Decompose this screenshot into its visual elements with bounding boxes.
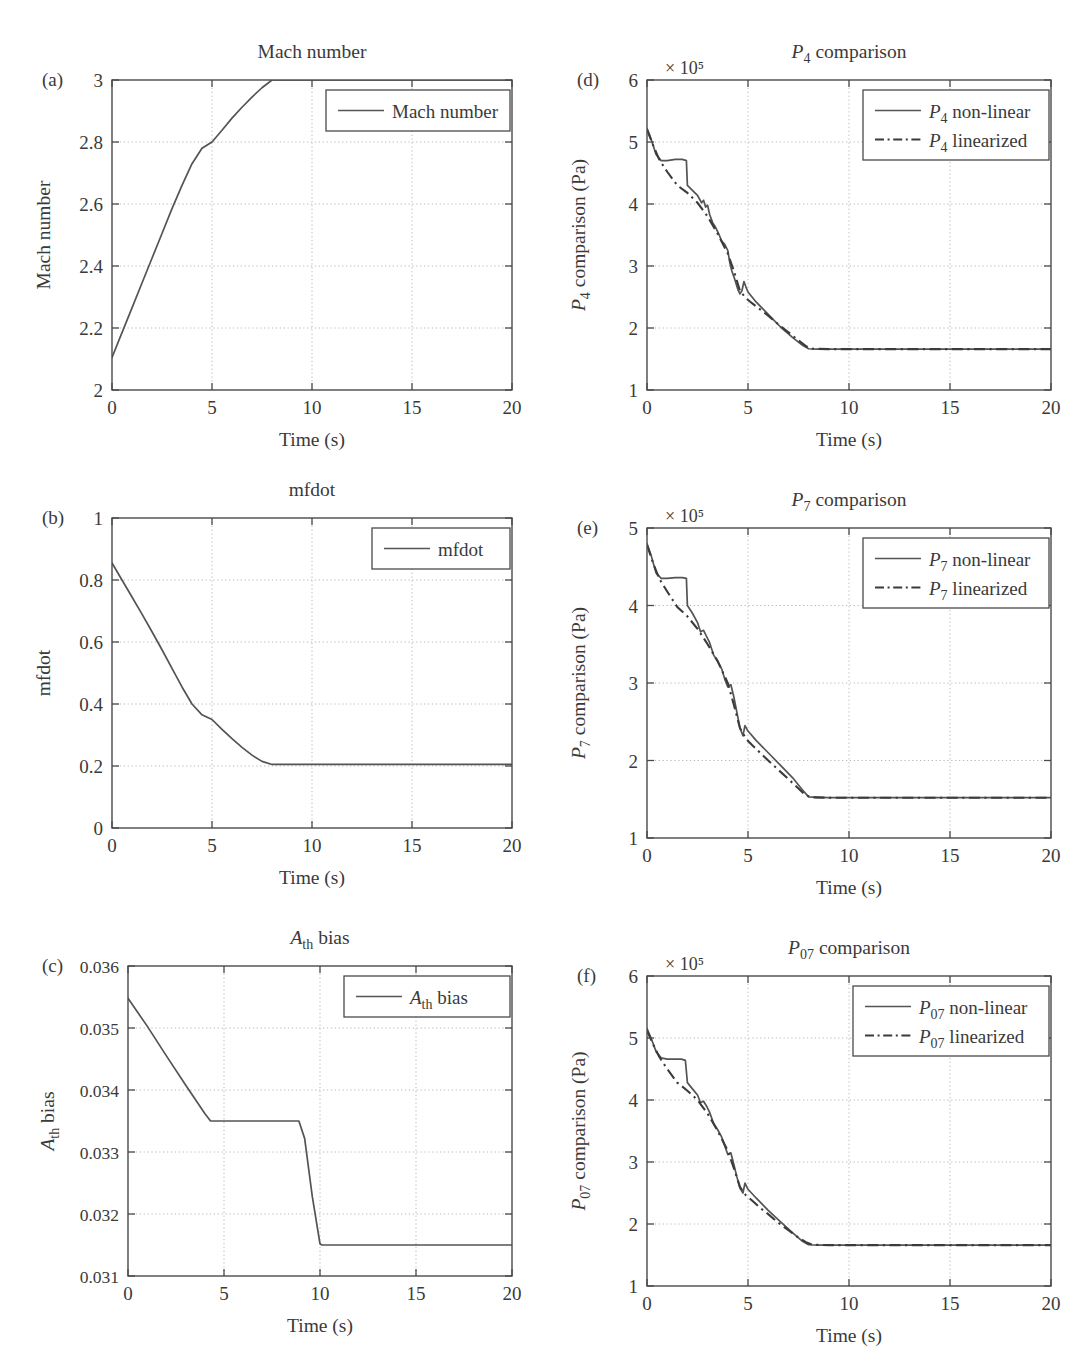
x-tick-label: 10 [840,397,859,418]
legend: P4 non-linearP4 linearized [863,90,1049,160]
y-tick-label: 0.8 [79,570,103,591]
chart-panel-d: (d)P4 comparison× 10⁵05101520123456Time … [535,18,1071,466]
panel-letter: (b) [42,507,64,529]
x-axis-title: Time (s) [279,429,345,451]
y-tick-label: 0.036 [80,957,120,977]
legend-label: Mach number [392,101,499,122]
y-axis-title: P07 comparison (Pa) [568,1051,593,1211]
x-tick-label: 0 [642,1293,652,1314]
y-tick-label: 6 [629,70,639,91]
x-tick-label: 5 [743,1293,753,1314]
panel-title: Mach number [258,41,367,62]
chart-panel-f: (f)P07 comparison× 10⁵05101520123456Time… [535,914,1071,1365]
panel-title: P4 comparison [791,41,907,66]
x-tick-label: 15 [941,845,960,866]
x-tick-label: 15 [941,1293,960,1314]
x-axis-title: Time (s) [816,1325,882,1347]
x-tick-label: 5 [743,845,753,866]
legend: Mach number [326,90,510,131]
y-tick-label: 2 [629,1214,639,1235]
panel-title: P07 comparison [787,937,910,962]
y-tick-label: 4 [629,194,639,215]
x-tick-label: 0 [107,835,117,856]
y-axis-title: Mach number [33,180,54,289]
y-tick-label: 1 [629,828,639,849]
axis-exponent-label: × 10⁵ [665,506,704,526]
y-tick-label: 2.6 [79,194,103,215]
y-tick-label: 0.4 [79,694,103,715]
y-tick-label: 2.4 [79,256,103,277]
x-tick-label: 20 [1042,1293,1061,1314]
y-tick-label: 3 [629,256,639,277]
figure-six-panel-simulation-results: (a)Mach number0510152022.22.42.62.83Time… [0,0,1071,1365]
x-tick-label: 10 [840,1293,859,1314]
y-tick-label: 0.6 [79,632,103,653]
y-tick-label: 0.031 [80,1267,119,1287]
x-tick-label: 0 [107,397,117,418]
x-tick-label: 0 [123,1283,133,1304]
x-tick-label: 10 [840,845,859,866]
y-tick-label: 3 [629,673,639,694]
legend: mfdot [372,528,510,569]
y-tick-label: 6 [629,966,639,987]
x-tick-label: 0 [642,845,652,866]
x-tick-label: 15 [403,397,422,418]
panel-letter: (f) [577,965,596,987]
x-tick-label: 20 [503,835,522,856]
y-tick-label: 2.2 [79,318,103,339]
x-tick-label: 15 [407,1283,426,1304]
x-tick-label: 10 [303,835,322,856]
y-tick-label: 2 [629,751,639,772]
y-tick-label: 3 [94,70,104,91]
x-tick-label: 10 [303,397,322,418]
y-tick-label: 0.034 [80,1081,120,1101]
y-tick-label: 2 [94,380,104,401]
axis-exponent-label: × 10⁵ [665,58,704,78]
x-tick-label: 5 [207,835,217,856]
y-tick-label: 1 [629,1276,639,1297]
panel-letter: (a) [42,69,63,91]
legend: Ath bias [344,976,510,1017]
x-tick-label: 5 [207,397,217,418]
legend: P7 non-linearP7 linearized [863,538,1049,608]
y-tick-label: 1 [94,508,104,529]
y-tick-label: 0.033 [80,1143,120,1163]
y-tick-label: 5 [629,518,639,539]
y-tick-label: 4 [629,596,639,617]
y-tick-label: 4 [629,1090,639,1111]
x-tick-label: 15 [403,835,422,856]
x-tick-label: 10 [311,1283,330,1304]
y-tick-label: 0.035 [80,1019,120,1039]
panel-title: P7 comparison [791,489,907,514]
x-tick-label: 5 [743,397,753,418]
y-tick-label: 5 [629,1028,639,1049]
series-line-1 [647,128,1051,349]
x-tick-label: 0 [642,397,652,418]
x-tick-label: 20 [1042,397,1061,418]
y-tick-label: 0.032 [80,1205,119,1225]
panel-letter: (e) [577,517,598,539]
axis-exponent-label: × 10⁵ [665,954,704,974]
y-axis-title: mfdot [33,649,54,696]
y-axis-title: Ath bias [37,1091,62,1152]
panel-letter: (d) [577,69,599,91]
chart-panel-c: (c)Ath bias051015200.0310.0320.0330.0340… [0,914,535,1365]
chart-panel-e: (e)P7 comparison× 10⁵0510152012345Time (… [535,466,1071,914]
y-tick-label: 0 [94,818,104,839]
y-tick-label: 1 [629,380,639,401]
legend: P07 non-linearP07 linearized [853,986,1049,1056]
x-axis-title: Time (s) [279,867,345,889]
y-tick-label: 0.2 [79,756,103,777]
x-tick-label: 15 [941,397,960,418]
x-tick-label: 5 [219,1283,229,1304]
x-tick-label: 20 [1042,845,1061,866]
y-axis-title: P4 comparison (Pa) [568,159,593,312]
x-tick-label: 20 [503,1283,522,1304]
chart-panel-a: (a)Mach number0510152022.22.42.62.83Time… [0,18,535,466]
x-axis-title: Time (s) [816,877,882,899]
legend-label: mfdot [438,539,484,560]
y-axis-title: P7 comparison (Pa) [568,607,593,760]
y-tick-label: 2 [629,318,639,339]
x-axis-title: Time (s) [287,1315,353,1337]
panel-title: Ath bias [288,927,349,952]
